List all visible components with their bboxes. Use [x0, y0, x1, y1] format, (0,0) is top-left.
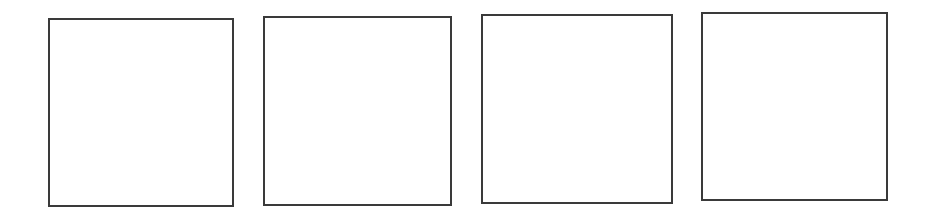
- empty-panel-4: [701, 12, 888, 201]
- empty-panel-2: [263, 16, 452, 206]
- empty-panel-1: [48, 18, 234, 207]
- empty-panel-3: [481, 14, 673, 204]
- worksheet-page: [0, 0, 936, 224]
